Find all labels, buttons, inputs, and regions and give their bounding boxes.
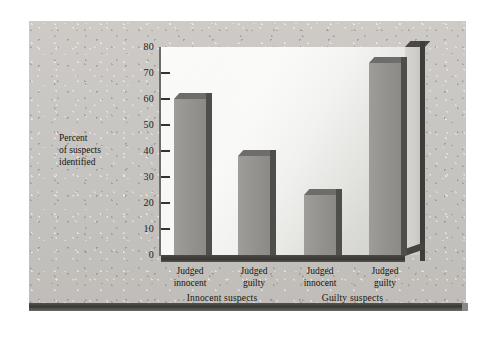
- bar: [174, 99, 206, 255]
- category-label-line-1: Judged: [160, 266, 220, 278]
- y-tick-label-50: 50: [128, 119, 154, 130]
- card-base-shadow: [29, 303, 466, 311]
- bar: [369, 63, 401, 255]
- chart-figure: Percent of suspects identified 807060504…: [0, 0, 497, 350]
- plot-right-border: [420, 41, 425, 261]
- bar: [304, 195, 336, 255]
- y-tick-mark-50: [161, 124, 170, 126]
- bar-side-face: [206, 93, 212, 255]
- group-label: Innocent suspects: [162, 293, 282, 303]
- category-label-line-2: innocent: [160, 278, 220, 290]
- y-tick-label-80: 80: [128, 41, 154, 52]
- category-label-line-1: Judged: [290, 266, 350, 278]
- y-tick-mark-40: [161, 150, 170, 152]
- group-label: Guilty suspects: [293, 293, 413, 303]
- category-label: Judgedguilty: [355, 266, 415, 289]
- y-tick-mark-60: [161, 98, 170, 100]
- y-tick-mark-10: [161, 228, 170, 230]
- y-tick-label-60: 60: [128, 93, 154, 104]
- y-tick-label-20: 20: [128, 197, 154, 208]
- y-tick-label-30: 30: [128, 171, 154, 182]
- y-axis-title-line-3: identified: [59, 156, 143, 168]
- category-label: Judgedinnocent: [160, 266, 220, 289]
- y-axis-title-line-1: Percent: [59, 132, 143, 144]
- category-label: Judgedinnocent: [290, 266, 350, 289]
- bar-side-face: [401, 57, 407, 255]
- y-tick-mark-70: [161, 72, 170, 74]
- category-label-line-2: guilty: [355, 278, 415, 290]
- bar: [238, 156, 270, 255]
- category-label-line-1: Judged: [224, 266, 284, 278]
- bar-side-face: [270, 150, 276, 255]
- bar-side-face: [336, 189, 342, 255]
- y-tick-label-10: 10: [128, 223, 154, 234]
- y-tick-mark-20: [161, 202, 170, 204]
- category-label-line-1: Judged: [355, 266, 415, 278]
- card-base-shadow-tip: [462, 303, 468, 311]
- y-tick-label-70: 70: [128, 67, 154, 78]
- category-label: Judgedguilty: [224, 266, 284, 289]
- y-tick-label-40: 40: [128, 145, 154, 156]
- y-tick-mark-30: [161, 176, 170, 178]
- category-label-line-2: innocent: [290, 278, 350, 290]
- y-tick-label-0: 0: [128, 249, 154, 260]
- category-label-line-2: guilty: [224, 278, 284, 290]
- plot-floor-baseline: [161, 255, 405, 262]
